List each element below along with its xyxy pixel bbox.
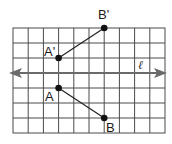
line-label: ℓ bbox=[138, 58, 143, 72]
point-a-prime bbox=[55, 55, 62, 62]
label-a-prime: A' bbox=[44, 44, 55, 59]
point-a bbox=[55, 85, 62, 92]
label-a: A bbox=[45, 89, 54, 104]
point-b-prime bbox=[101, 25, 108, 32]
label-b: B bbox=[106, 120, 115, 135]
line-l: ℓ bbox=[9, 58, 167, 78]
label-b-prime: B' bbox=[98, 7, 109, 22]
reflection-diagram: ℓ A B A' B' bbox=[0, 0, 172, 144]
grid bbox=[13, 28, 165, 133]
